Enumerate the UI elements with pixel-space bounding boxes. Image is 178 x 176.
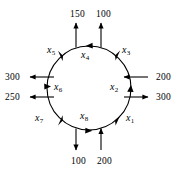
flow-label-right-lower-out: 300 <box>156 93 171 103</box>
flow-label-top-right-in: 100 <box>96 10 111 20</box>
segment-x1-index: 1 <box>131 117 135 125</box>
segment-x3-name: x <box>122 44 126 55</box>
loop-arrowhead-bottom <box>85 128 92 134</box>
segment-x8-index: 8 <box>85 115 89 123</box>
segment-x6-name: x <box>54 81 58 92</box>
segment-x5-name: x <box>47 44 51 55</box>
loop-arrowhead-lower-right <box>115 115 120 125</box>
segment-x2-name: x <box>110 81 114 92</box>
segment-x6-index: 6 <box>59 86 63 94</box>
flow-label-right-upper-in: 200 <box>156 73 171 83</box>
flow-label-left-lower-out: 250 <box>5 93 20 103</box>
segment-x1-name: x <box>126 112 130 123</box>
segment-x4-index: 4 <box>86 54 90 62</box>
segment-x3-index: 3 <box>127 49 131 57</box>
flow-label-bottom-left-out: 100 <box>71 157 86 167</box>
loop-arrowhead-right <box>127 85 133 92</box>
loop-arrowhead-top <box>86 43 93 49</box>
segment-x2-index: 2 <box>115 86 119 94</box>
flow-label-left-upper-out: 300 <box>5 73 20 83</box>
segment-label-x7: x7 <box>35 113 43 123</box>
segment-label-x3: x3 <box>122 45 130 55</box>
segment-label-x8: x8 <box>80 111 88 121</box>
flow-label-top-left-out: 150 <box>70 10 85 20</box>
segment-x5-index: 5 <box>52 49 56 57</box>
segment-label-x5: x5 <box>47 45 55 55</box>
segment-x4-name: x <box>81 49 85 60</box>
flow-network-diagram: 150 100 200 300 100 200 300 250 x1 x2 x3… <box>0 0 178 176</box>
segment-label-x6: x6 <box>54 82 62 92</box>
segment-x7-index: 7 <box>40 117 44 125</box>
segment-x7-name: x <box>35 112 39 123</box>
segment-x8-name: x <box>80 110 84 121</box>
segment-label-x1: x1 <box>126 113 134 123</box>
flow-label-bottom-right-in: 200 <box>97 157 112 167</box>
segment-label-x2: x2 <box>110 82 118 92</box>
network-svg-canvas <box>0 0 178 176</box>
segment-label-x4: x4 <box>81 50 89 60</box>
